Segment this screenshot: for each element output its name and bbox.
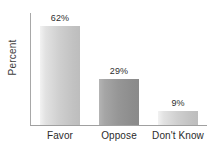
plot-area: 62%29%9% xyxy=(31,13,207,125)
bar-don-t-know xyxy=(158,111,198,125)
bar-group: 29% xyxy=(99,13,139,125)
bar-value-label: 9% xyxy=(171,98,184,108)
bar-value-label: 62% xyxy=(51,13,69,23)
bar-chart: Percent 62%29%9% FavorOpposeDon't Know xyxy=(0,0,214,151)
y-axis-title: Percent xyxy=(7,28,18,88)
category-axis-labels: FavorOpposeDon't Know xyxy=(31,130,207,148)
bar-favor xyxy=(40,26,80,125)
bar-group: 62% xyxy=(40,13,80,125)
category-label-oppose: Oppose xyxy=(90,130,149,141)
category-label-don-t-know: Don't Know xyxy=(149,130,208,141)
bar-value-label: 29% xyxy=(110,66,128,76)
x-axis-line xyxy=(30,125,207,126)
bar-oppose xyxy=(99,79,139,125)
bar-group: 9% xyxy=(158,13,198,125)
category-label-favor: Favor xyxy=(31,130,90,141)
